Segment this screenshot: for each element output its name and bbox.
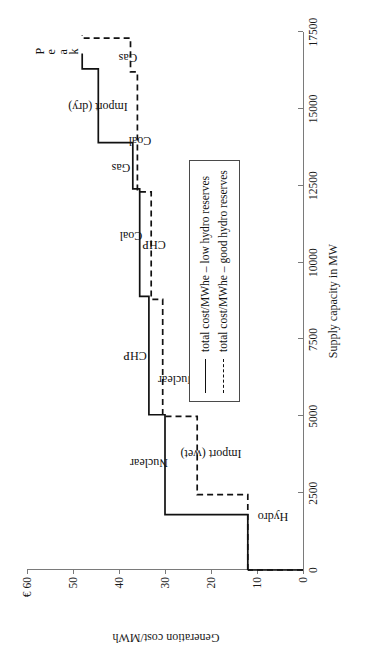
annotation-solid-nuclear: Nuclear xyxy=(130,455,168,470)
plot-area: 025005000750010000125001500017500 010203… xyxy=(0,0,371,663)
annotation-dashed-coal: Coal xyxy=(128,132,151,147)
legend-line-dashed-icon xyxy=(218,359,228,393)
peak-letter: k xyxy=(69,48,81,55)
annotation-solid-hydro: Hydro xyxy=(258,509,289,524)
legend: total cost/MWhe – low hydro reserves tot… xyxy=(189,160,240,402)
annotation-dashed-chp: CHP xyxy=(142,237,165,252)
merit-order-figure: 025005000750010000125001500017500 010203… xyxy=(0,0,371,663)
annotation-dashed-import-wet: Import (wet) xyxy=(181,446,242,461)
legend-item-low-hydro: total cost/MWhe – low hydro reserves xyxy=(196,170,214,393)
annotation-solid-chp: CHP xyxy=(123,347,146,362)
legend-label-good-hydro: total cost/MWhe – good hydro reserves xyxy=(217,170,229,352)
annotation-solid-import-dry: Import (dry) xyxy=(68,98,128,113)
peak-label: Peak xyxy=(35,48,81,55)
legend-item-good-hydro: total cost/MWhe – good hydro reserves xyxy=(214,170,232,393)
annotation-solid-gas: Gas xyxy=(112,160,131,175)
legend-label-low-hydro: total cost/MWhe – low hydro reserves xyxy=(199,176,211,352)
annotation-dashed-gas: Gas xyxy=(119,49,138,64)
legend-line-solid-icon xyxy=(200,359,210,393)
annotation-solid-coal: Coal xyxy=(119,227,142,242)
supply-curves xyxy=(0,0,371,663)
